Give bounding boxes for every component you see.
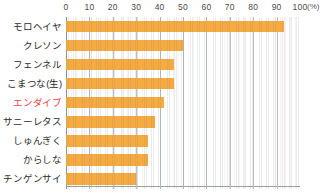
bar-4 <box>66 97 164 109</box>
x-tick-label-40: 40 <box>155 2 165 12</box>
gridline-60 <box>206 17 207 189</box>
x-tick-label-90: 90 <box>272 2 282 12</box>
category-label-7: からしな <box>23 155 62 165</box>
bar-3 <box>66 78 174 90</box>
gridline-70 <box>230 17 231 189</box>
bar-8 <box>66 173 136 185</box>
plot-area <box>66 17 300 189</box>
category-label-2: フェンネル <box>13 60 62 70</box>
category-label-5: サニーレタス <box>3 117 62 127</box>
category-label-8: チンゲンサイ <box>3 174 62 184</box>
bar-6 <box>66 135 148 147</box>
category-labels: モロヘイヤクレソンフェンネルこまつな(生)エンダイブサニーレタスしゅんぎくからし… <box>0 17 64 189</box>
gridline-80 <box>253 17 254 189</box>
x-tick-label-30: 30 <box>131 2 141 12</box>
bar-5 <box>66 116 155 128</box>
x-tick-label-20: 20 <box>108 2 118 12</box>
bar-0 <box>66 21 284 33</box>
x-tick-label-100: 100 <box>293 2 308 12</box>
bar-1 <box>66 40 183 52</box>
bar-7 <box>66 154 148 166</box>
category-label-6: しゅんぎく <box>13 136 62 146</box>
category-label-4: エンダイブ <box>13 98 62 108</box>
x-tick-label-10: 10 <box>84 2 94 12</box>
category-label-3: こまつな(生) <box>7 79 62 89</box>
category-label-1: クレソン <box>23 41 62 51</box>
x-tick-label-50: 50 <box>178 2 188 12</box>
bar-chart: 0102030405060708090100(%) モロヘイヤクレソンフェンネル… <box>0 0 326 193</box>
gridline-50 <box>183 17 184 189</box>
x-tick-label-80: 80 <box>248 2 258 12</box>
x-axis-labels: 0102030405060708090100(%) <box>0 0 326 16</box>
x-tick-label-0: 0 <box>64 2 69 12</box>
x-tick-label-60: 60 <box>201 2 211 12</box>
x-axis-unit-label: (%) <box>307 2 319 11</box>
x-tick-label-70: 70 <box>225 2 235 12</box>
category-label-0: モロヘイヤ <box>13 22 62 32</box>
bar-2 <box>66 59 174 71</box>
gridline-90 <box>277 17 278 189</box>
